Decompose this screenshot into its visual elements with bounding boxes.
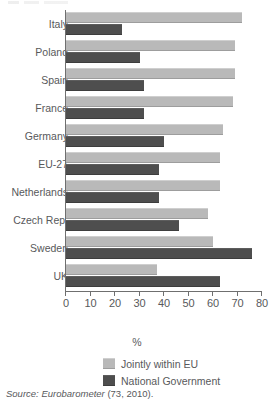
bar-jointly-eu-france — [66, 96, 233, 107]
x-tick — [139, 291, 140, 296]
x-tick — [237, 291, 238, 296]
legend-swatch-jointly-eu — [103, 358, 115, 369]
bar-jointly-eu-sweden — [66, 236, 213, 247]
category-label-italy: Italy — [0, 19, 68, 30]
bar-national-government-uk — [66, 276, 220, 287]
category-label-eu-27: EU-27 — [0, 159, 68, 170]
category-label-poland: Poland — [0, 47, 68, 58]
legend-item-national-government: National Government — [103, 373, 220, 388]
bar-national-government-czech-rep — [66, 220, 179, 231]
y-axis-line — [65, 10, 66, 291]
x-tick — [90, 291, 91, 296]
legend-item-jointly-eu: Jointly within EU — [103, 356, 220, 371]
x-tick — [188, 291, 189, 296]
bar-jointly-eu-uk — [66, 264, 157, 275]
x-tick — [114, 291, 115, 296]
category-label-france: France — [0, 103, 68, 114]
legend-label-jointly-eu: Jointly within EU — [121, 358, 198, 370]
bar-chart: Italy Poland Spain France Germany EU-27 … — [0, 10, 274, 302]
bar-national-government-spain — [66, 80, 144, 91]
bar-national-government-eu-27 — [66, 164, 159, 175]
scan-artifact — [8, 1, 68, 4]
source-reference: (73, 2010). — [107, 388, 153, 399]
chart-legend: Jointly within EU National Government — [103, 356, 220, 390]
bar-jointly-eu-italy — [66, 12, 242, 23]
bar-jointly-eu-germany — [66, 124, 223, 135]
bar-national-government-italy — [66, 24, 122, 35]
bar-jointly-eu-spain — [66, 68, 235, 79]
source-label: Source: — [6, 388, 39, 399]
bar-jointly-eu-netherlands — [66, 180, 220, 191]
bar-national-government-netherlands — [66, 192, 159, 203]
x-tick-label: 80 — [247, 297, 274, 309]
category-label-netherlands: Netherlands — [0, 187, 68, 198]
bar-jointly-eu-poland — [66, 40, 235, 51]
bar-jointly-eu-czech-rep — [66, 208, 208, 219]
bar-national-government-sweden — [66, 248, 252, 259]
bar-national-government-germany — [66, 136, 164, 147]
legend-swatch-national-government — [103, 375, 115, 386]
category-label-czech-rep: Czech Rep. — [0, 215, 68, 226]
x-axis-title: % — [0, 336, 274, 348]
legend-label-national-government: National Government — [121, 375, 220, 387]
x-tick — [65, 291, 66, 296]
source-name: Eurobarometer — [41, 388, 104, 399]
category-label-germany: Germany — [0, 131, 68, 142]
source-note: Source: Eurobarometer (73, 2010). — [6, 388, 153, 399]
x-tick — [212, 291, 213, 296]
category-label-sweden: Sweden — [0, 243, 68, 254]
category-label-uk: UK — [0, 271, 68, 282]
bar-national-government-france — [66, 108, 144, 119]
bar-national-government-poland — [66, 52, 140, 63]
bar-jointly-eu-eu-27 — [66, 152, 220, 163]
x-tick — [163, 291, 164, 296]
x-tick — [261, 291, 262, 296]
category-label-spain: Spain — [0, 75, 68, 86]
